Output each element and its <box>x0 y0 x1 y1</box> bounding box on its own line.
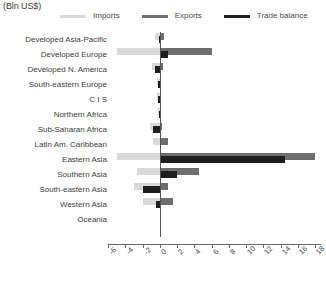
units-caption: (Bln US$) <box>3 1 41 11</box>
bar-group <box>108 92 321 107</box>
bar-imports[interactable] <box>137 168 159 175</box>
bar-trade-balance[interactable] <box>160 51 169 58</box>
x-axis-tick-label: -6 <box>107 245 118 256</box>
bar-exports[interactable] <box>160 183 169 190</box>
legend-label-imports: Imports <box>93 12 120 20</box>
bar-imports[interactable] <box>153 138 160 145</box>
zero-axis-line <box>160 32 161 237</box>
legend-swatch-trade-balance <box>224 15 250 18</box>
category-label: South-eastern Europe <box>29 77 107 92</box>
x-axis-tick-label: 4 <box>193 247 202 256</box>
bar-group <box>108 167 321 182</box>
category-label: Developed Asia-Pacific <box>25 32 107 47</box>
bar-trade-balance[interactable] <box>153 126 160 133</box>
bar-group <box>108 62 321 77</box>
bar-group <box>108 77 321 92</box>
category-label: Western Asia <box>60 197 107 212</box>
bar-group <box>108 137 321 152</box>
plot-area: Developed Asia-PacificDeveloped EuropeDe… <box>0 32 321 244</box>
x-axis-line <box>108 244 321 245</box>
category-label: Sub-Saharan Africa <box>38 122 107 137</box>
x-axis-tick-label: -2 <box>142 245 153 256</box>
legend-label-trade-balance: Trade balance <box>257 12 308 20</box>
legend-item-imports[interactable]: Imports <box>60 12 120 20</box>
bar-trade-balance[interactable] <box>160 156 285 163</box>
category-label: Developed N. America <box>27 62 107 77</box>
legend-label-exports: Exports <box>175 12 202 20</box>
bar-imports[interactable] <box>117 153 160 160</box>
category-label: C I S <box>89 92 107 107</box>
legend-swatch-imports <box>60 15 86 18</box>
x-axis-tick-label: 8 <box>228 247 237 256</box>
bar-group <box>108 197 321 212</box>
bar-group <box>108 47 321 62</box>
category-label: South-eastern Asia <box>39 182 107 197</box>
legend-item-trade-balance[interactable]: Trade balance <box>224 12 308 20</box>
x-axis: -6-4-2024681012141618 <box>108 244 321 281</box>
chart-legend: Imports Exports Trade balance <box>60 12 308 20</box>
bar-group <box>108 122 321 137</box>
bar-group <box>108 32 321 47</box>
legend-swatch-exports <box>142 15 168 18</box>
x-axis-tick-label: 0 <box>159 247 168 256</box>
bar-group <box>108 152 321 167</box>
legend-item-exports[interactable]: Exports <box>142 12 202 20</box>
category-label: Oceania <box>77 212 107 227</box>
x-axis-tick-label: -4 <box>124 245 135 256</box>
bar-group <box>108 107 321 122</box>
category-label: Northern Africa <box>54 107 107 122</box>
bar-exports[interactable] <box>160 198 173 205</box>
category-label: Developed Europe <box>41 47 107 62</box>
bar-group <box>108 182 321 197</box>
x-axis-tick-label: 2 <box>176 247 185 256</box>
bar-trade-balance[interactable] <box>160 171 177 178</box>
x-axis-tick-label: 6 <box>211 247 220 256</box>
bar-group <box>108 212 321 227</box>
bar-imports[interactable] <box>117 48 160 55</box>
category-label: Eastern Asia <box>62 152 107 167</box>
bar-trade-balance[interactable] <box>143 186 160 193</box>
x-axis-tick-label: 12 <box>262 244 274 256</box>
category-label: Southern Asia <box>57 167 107 182</box>
category-label: Latin Am. Caribbean <box>35 137 108 152</box>
